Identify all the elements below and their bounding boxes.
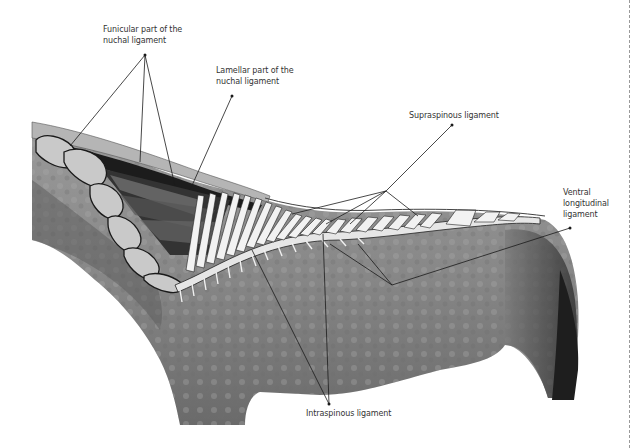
label-intraspinous: Intraspinous ligament — [306, 408, 391, 419]
label-funicular: Funicular part of the nuchal ligament — [103, 24, 182, 46]
anatomy-figure: Funicular part of the nuchal ligament La… — [0, 0, 644, 448]
page-edge-dashed-line — [629, 0, 630, 448]
horse-illustration — [0, 0, 644, 448]
label-ventral: Ventral longitudinal ligament — [563, 187, 609, 220]
label-lamellar: Lamellar part of the nuchal ligament — [216, 65, 294, 87]
label-supraspinous: Supraspinous ligament — [409, 110, 499, 121]
